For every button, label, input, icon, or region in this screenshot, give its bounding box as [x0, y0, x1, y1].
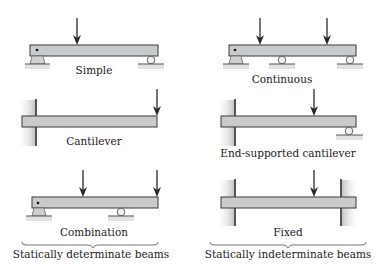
roller-support-icon	[337, 56, 363, 69]
roller-support-icon	[138, 56, 164, 69]
group-determinate: Statically determinate beams	[13, 242, 169, 260]
pin-support-icon	[25, 56, 50, 69]
load-arrow-icon	[153, 170, 161, 197]
pin-support-icon	[223, 56, 249, 69]
beam-simple: Simple	[25, 18, 164, 76]
beam-fixed: Fixed	[216, 170, 360, 238]
group-indeterminate: Statically indeterminate beams	[205, 242, 372, 260]
beam-combination: Combination	[26, 170, 161, 238]
beam-cantilever: Cantilever	[17, 89, 161, 147]
beam-label: Cantilever	[66, 135, 122, 147]
beam-label: Simple	[76, 64, 113, 76]
roller-support-icon	[269, 56, 295, 69]
load-arrow-icon	[310, 89, 318, 116]
load-arrow-icon	[79, 170, 87, 197]
beam-bar	[221, 116, 356, 127]
pin-dot	[36, 49, 39, 52]
beam-end-supported-cantilever: End-supported cantilever	[216, 89, 363, 159]
beam-label: End-supported cantilever	[220, 147, 356, 159]
beam-label: Fixed	[273, 226, 303, 238]
pin-support-icon	[26, 208, 52, 221]
load-arrow-icon	[323, 18, 331, 45]
group-label: Statically determinate beams	[13, 248, 169, 260]
beam-types-diagram: Simple Continuous	[0, 0, 383, 269]
beam-bar	[22, 116, 157, 127]
beam-bar	[32, 197, 158, 208]
pin-dot	[37, 202, 40, 205]
roller-support-icon	[108, 208, 134, 221]
beam-bar	[30, 45, 158, 56]
pin-dot	[234, 49, 237, 52]
beam-bar	[221, 197, 356, 208]
load-arrow-icon	[256, 18, 264, 45]
roller-support-icon	[336, 127, 363, 140]
beam-bar	[229, 45, 356, 56]
beam-continuous: Continuous	[223, 18, 363, 85]
load-arrow-icon	[73, 18, 81, 45]
group-label: Statically indeterminate beams	[205, 248, 372, 260]
load-arrow-icon	[153, 89, 161, 116]
load-arrow-icon	[310, 170, 318, 197]
beam-label: Combination	[60, 226, 128, 238]
beam-label: Continuous	[252, 73, 313, 85]
